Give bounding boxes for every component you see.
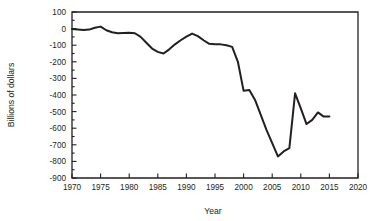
x-tick-label: 2015 — [320, 183, 339, 192]
data-series-line — [72, 27, 329, 157]
y-tick-label: 100 — [52, 8, 66, 17]
x-axis-ticks — [72, 174, 358, 179]
y-tick-label: -800 — [50, 157, 67, 166]
x-tick-label: 1970 — [63, 183, 82, 192]
x-tick-label: 1975 — [91, 183, 110, 192]
x-tick-label: 1995 — [206, 183, 225, 192]
y-tick-label: -600 — [50, 124, 67, 133]
y-tick-label: -700 — [50, 141, 67, 150]
x-tick-label: 1985 — [149, 183, 168, 192]
y-tick-label: -500 — [50, 108, 67, 117]
y-tick-label: -400 — [50, 91, 67, 100]
x-tick-label: 2010 — [292, 183, 311, 192]
chart-container: 1000-100-200-300-400-500-600-700-800-900… — [0, 0, 385, 221]
y-axis-title: Billions of dollars — [6, 63, 16, 127]
x-axis-title: Year — [204, 206, 222, 216]
x-tick-label: 1980 — [120, 183, 139, 192]
x-tick-label: 2000 — [234, 183, 253, 192]
line-chart: 1000-100-200-300-400-500-600-700-800-900… — [0, 0, 385, 221]
y-tick-label: -300 — [50, 74, 67, 83]
x-tick-label: 2020 — [349, 183, 368, 192]
x-tick-label: 2005 — [263, 183, 282, 192]
axis-frame — [72, 12, 358, 178]
y-axis-tick-labels: 1000-100-200-300-400-500-600-700-800-900 — [50, 8, 67, 183]
y-tick-label: -200 — [50, 58, 67, 67]
y-tick-label: 0 — [61, 25, 66, 34]
x-tick-label: 1990 — [177, 183, 196, 192]
y-tick-label: -900 — [50, 174, 67, 183]
plot-frame — [72, 12, 358, 178]
x-axis-tick-labels: 1970197519801985199019952000200520102015… — [63, 183, 368, 192]
y-tick-label: -100 — [50, 41, 67, 50]
